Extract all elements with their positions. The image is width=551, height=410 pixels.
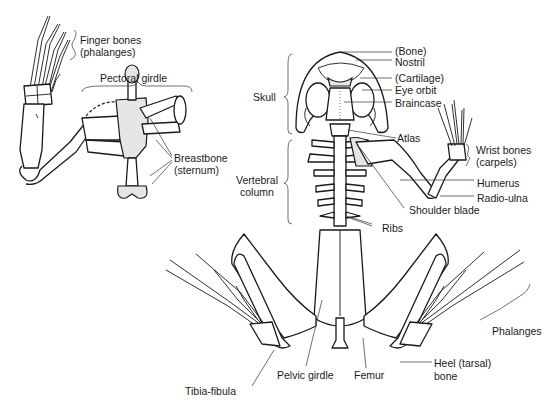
label-nostril: Nostril (395, 56, 425, 68)
label-shoulder-blade: Shoulder blade (409, 204, 480, 216)
label-cartilage: (Cartilage) (395, 72, 444, 84)
label-tibia-fibula: Tibia-fibula (185, 385, 236, 397)
label-phalanges: Phalanges (492, 325, 542, 337)
main-skeleton-drawing (166, 52, 524, 348)
label-pectoral-girdle: Pectoral girdle (100, 72, 167, 84)
label-finger-bones: Finger bones (80, 34, 141, 46)
label-sternum-sub: (sternum) (174, 164, 219, 176)
label-braincase: Braincase (395, 97, 442, 109)
label-heel: Heel (tarsal) (434, 357, 491, 369)
label-wrist-bones: Wrist bones (476, 144, 531, 156)
label-humerus: Humerus (477, 177, 520, 189)
label-column: column (240, 186, 274, 198)
label-skull: Skull (253, 91, 276, 103)
label-pelvic-girdle: Pelvic girdle (277, 369, 334, 381)
label-heel-bone: bone (434, 370, 457, 382)
label-carpels-sub: (carpels) (476, 156, 517, 168)
label-ribs: Ribs (382, 222, 403, 234)
label-vertebral: Vertebral (236, 174, 278, 186)
label-femur: Femur (354, 369, 384, 381)
label-breastbone: Breastbone (174, 152, 228, 164)
label-eye-orbit: Eye orbit (395, 84, 436, 96)
label-radio-ulna: Radio-ulna (477, 192, 528, 204)
label-atlas: Atlas (397, 132, 420, 144)
label-phalanges-sub: (phalanges) (80, 46, 135, 58)
